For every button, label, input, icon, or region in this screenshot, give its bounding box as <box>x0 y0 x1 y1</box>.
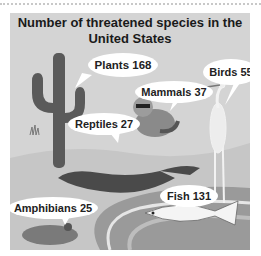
bubble-birds: Birds 55 <box>203 59 250 85</box>
bubble-reptiles: Reptiles 27 <box>68 113 140 135</box>
bubble-fish: Fish 131 <box>160 185 218 207</box>
bubble-mammals: Mammals 37 <box>135 81 213 103</box>
dotted-divider <box>0 3 261 5</box>
bubble-plants: Plants 168 <box>88 53 158 77</box>
bubble-amphibians: Amphibians 25 <box>10 197 98 219</box>
infographic-panel: Number of threatened species in the Unit… <box>10 13 250 250</box>
